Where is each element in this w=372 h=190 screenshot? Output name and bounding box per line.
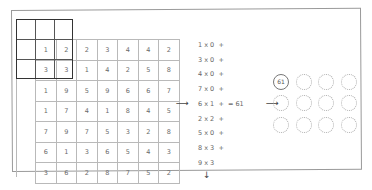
grid-cell: 2 — [159, 163, 180, 184]
grid-cell: 7 — [118, 163, 139, 184]
grid-cell: 7 — [36, 122, 57, 143]
grid-cell: 2 — [77, 40, 98, 61]
output-cell: 61 — [273, 74, 289, 90]
kernel-divider — [17, 39, 72, 40]
grid-cell: 4 — [138, 101, 159, 122]
grid-cell: 5 — [77, 81, 98, 102]
grid-cell: 5 — [138, 163, 159, 184]
grid-cell: 6 — [56, 163, 77, 184]
grid-cell: 8 — [97, 163, 118, 184]
output-cell — [318, 74, 334, 90]
output-cell — [296, 74, 312, 90]
grid-cell: 5 — [118, 142, 139, 163]
arrow-right-icon: ⟶ — [176, 99, 189, 108]
equation-sum: 6 x 1 + = 61 — [198, 101, 244, 108]
equation-term: 2 x 2 + — [198, 116, 224, 123]
kernel-divider — [17, 59, 72, 60]
grid-cell: 9 — [97, 81, 118, 102]
kernel-divider — [54, 20, 55, 78]
output-cell — [341, 74, 357, 90]
output-cell — [318, 95, 334, 111]
output-cell — [296, 117, 312, 133]
grid-row: 1 9 5 9 6 6 7 — [36, 81, 180, 102]
grid-cell: 4 — [138, 142, 159, 163]
grid-cell: 6 — [118, 81, 139, 102]
grid-cell: 8 — [118, 101, 139, 122]
grid-row: 6 1 3 6 5 4 3 — [36, 142, 180, 163]
grid-cell: 2 — [159, 40, 180, 61]
grid-cell: 3 — [118, 122, 139, 143]
grid-cell: 3 — [97, 40, 118, 61]
grid-cell: 6 — [138, 81, 159, 102]
grid-cell: 4 — [77, 101, 98, 122]
kernel-divider — [35, 20, 36, 78]
kernel-window — [16, 19, 73, 79]
grid-cell: 2 — [118, 60, 139, 81]
output-cell — [341, 95, 357, 111]
grid-cell: 5 — [138, 60, 159, 81]
equation-term: 3 x 0 + — [198, 57, 224, 64]
grid-cell: 3 — [159, 142, 180, 163]
grid-row: 1 7 4 1 8 4 5 — [36, 101, 180, 122]
output-cell — [318, 117, 334, 133]
grid-cell: 3 — [77, 142, 98, 163]
equation-term: 4 x 0 + — [198, 71, 224, 78]
grid-cell: 2 — [138, 122, 159, 143]
equation-term: 7 x 0 + — [198, 86, 224, 93]
output-cell — [273, 95, 289, 111]
grid-cell: 1 — [36, 81, 57, 102]
output-cell — [296, 95, 312, 111]
grid-cell: 1 — [56, 142, 77, 163]
grid-cell: 6 — [97, 142, 118, 163]
output-cell — [341, 117, 357, 133]
grid-cell: 4 — [138, 40, 159, 61]
grid-cell: 5 — [97, 122, 118, 143]
grid-cell: 3 — [36, 163, 57, 184]
arrow-down-icon: ↓ — [203, 170, 211, 180]
grid-cell: 1 — [77, 60, 98, 81]
grid-cell: 1 — [97, 101, 118, 122]
grid-row: 3 6 2 8 7 5 2 — [36, 163, 180, 184]
equation-term: 5 x 0 + — [198, 130, 224, 137]
grid-cell: 4 — [97, 60, 118, 81]
grid-cell: 8 — [159, 122, 180, 143]
grid-cell: 2 — [77, 163, 98, 184]
grid-row: 7 9 7 5 3 2 8 — [36, 122, 180, 143]
output-cell — [273, 117, 289, 133]
grid-cell: 9 — [56, 81, 77, 102]
grid-cell: 8 — [159, 60, 180, 81]
grid-cell: 6 — [36, 142, 57, 163]
grid-cell: 1 — [36, 101, 57, 122]
grid-cell: 7 — [56, 101, 77, 122]
grid-cell: 9 — [56, 122, 77, 143]
equation-term: 9 x 3 — [198, 160, 214, 167]
equation-term: 1 x 0 + — [198, 42, 224, 49]
grid-cell: 4 — [118, 40, 139, 61]
grid-cell: 7 — [77, 122, 98, 143]
equation-term: 8 x 3 + — [198, 145, 224, 152]
